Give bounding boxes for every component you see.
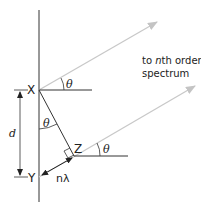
caption-line1: to nth order <box>142 55 201 66</box>
label-theta-z: θ <box>103 143 110 156</box>
label-n-lambda: nλ <box>56 172 70 185</box>
label-theta-x: θ <box>66 78 73 91</box>
upper-ray <box>39 22 157 90</box>
label-z: Z <box>74 142 82 156</box>
angle-arc-z <box>97 143 100 156</box>
caption-line2: spectrum <box>142 68 189 79</box>
diffraction-diagram: X Y Z d θ θ θ nλ to nth order spectrum <box>0 0 201 216</box>
label-d: d <box>9 127 16 140</box>
label-y: Y <box>27 171 36 185</box>
angle-arc-x <box>61 78 64 90</box>
label-x: X <box>27 83 35 97</box>
label-theta-xz: θ <box>43 117 50 130</box>
